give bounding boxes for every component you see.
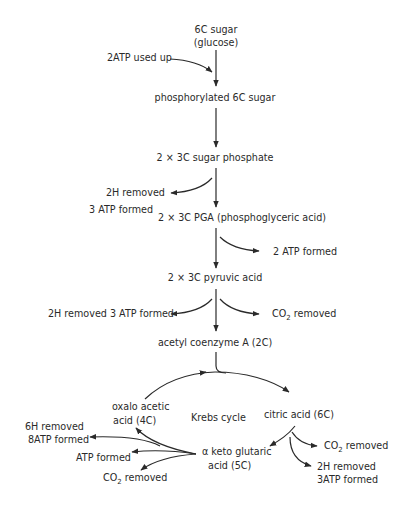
arrow-atp-formed-2 [220, 237, 259, 251]
glucose-label-line1: 6C sugar [195, 24, 238, 35]
sugar-phosphate-label: 2 × 3C sugar phosphate [157, 152, 274, 163]
phosphorylated-sugar-label: phosphorylated 6C sugar [155, 92, 276, 103]
glucose-label-line2: (glucose) [194, 37, 238, 48]
arrow-keto-co2 [141, 454, 196, 470]
h-atp-pyruvic-label: 2H removed 3 ATP formed [48, 308, 174, 319]
alpha-ketoglutaric-label-line2: acid (5C) [208, 460, 251, 471]
pyruvic-acid-label: 2 × 3C pyruvic acid [168, 272, 262, 283]
arrow-acetyl-into-cycle [216, 352, 226, 373]
arc-to-citric [215, 372, 289, 392]
arrow-h-atp-pyruvic [171, 299, 212, 314]
arrow-h-removed-1 [171, 178, 212, 193]
atp-formed-label-2: 2 ATP formed [273, 246, 337, 257]
keto-atp-formed-8-label: 8ATP formed [28, 434, 89, 445]
arc-oxaloacetic-to-citric-top [145, 372, 215, 399]
krebs-cycle-label: Krebs cycle [191, 412, 246, 423]
citric-h-removed-label: 2H removed [317, 461, 376, 472]
h-removed-label-1: 2H removed [106, 187, 165, 198]
atp-formed-label-1: 3 ATP formed [89, 204, 153, 215]
alpha-ketoglutaric-label-line1: α keto glutaric [202, 446, 272, 457]
pga-label: 2 × 3C PGA (phosphoglyceric acid) [158, 212, 326, 223]
arrow-atp-used [170, 59, 212, 72]
atp-used-label: 2ATP used up [107, 52, 172, 63]
keto-atp-formed-label: ATP formed [76, 452, 131, 463]
krebs-glycolysis-diagram: 6C sugar (glucose) 2ATP used up phosphor… [0, 0, 408, 508]
citric-co2-removed-label: CO2 removed [324, 440, 388, 454]
oxaloacetic-label-line1: oxalo acetic [112, 401, 169, 412]
arrow-citric-to-keto [270, 426, 295, 446]
arrow-citric-co2 [292, 432, 317, 446]
keto-co2-removed-label: CO2 removed [103, 472, 167, 486]
co2-removed-pyruvic-label: CO2 removed [272, 308, 336, 322]
arrow-keto-atp [132, 451, 196, 454]
arrow-co2-pyruvic [220, 299, 259, 314]
oxaloacetic-label-line2: acid (4C) [113, 415, 156, 426]
citric-atp-formed-label: 3ATP formed [317, 474, 378, 485]
citric-acid-label: citric acid (6C) [264, 409, 334, 420]
keto-h-removed-label: 6H removed [25, 421, 84, 432]
acetyl-coa-label: acetyl coenzyme A (2C) [158, 337, 272, 348]
